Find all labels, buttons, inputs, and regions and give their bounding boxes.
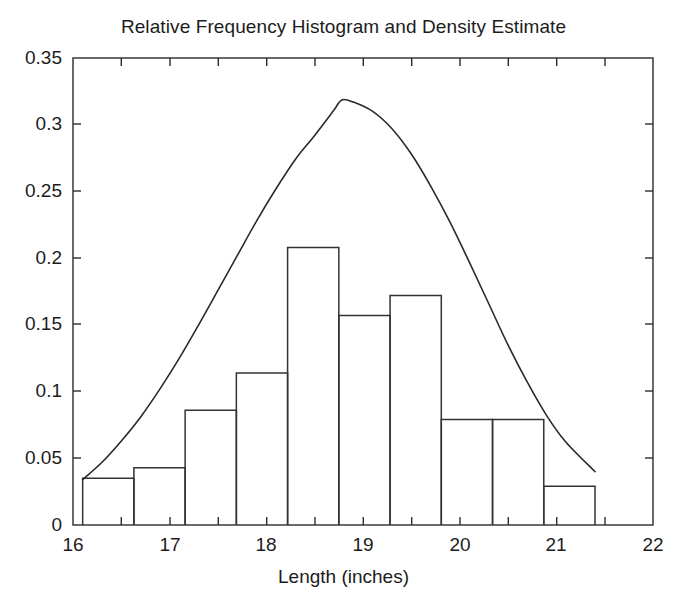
histogram-bar <box>339 316 390 525</box>
histogram-bar <box>134 468 185 525</box>
figure-canvas: Relative Frequency Histogram and Density… <box>0 0 687 607</box>
histogram-bar <box>288 247 339 525</box>
histogram-bar <box>236 373 287 525</box>
histogram-bar <box>185 410 236 525</box>
histogram-bar <box>544 486 595 525</box>
plot-area <box>0 0 687 607</box>
x-axis-ticks <box>121 58 605 525</box>
histogram-bar <box>83 478 134 525</box>
histogram-bars <box>83 247 595 525</box>
histogram-bar <box>390 296 441 525</box>
axes-frame <box>73 58 653 525</box>
histogram-bar <box>493 420 544 525</box>
y-axis-ticks <box>73 124 653 458</box>
histogram-bar <box>441 420 492 525</box>
